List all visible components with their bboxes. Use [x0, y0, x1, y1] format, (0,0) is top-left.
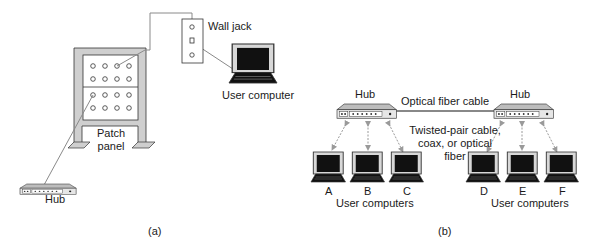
wall-jack [182, 19, 203, 63]
wall-jack-label: Wall jack [208, 20, 252, 32]
user-computers-left-label: User computers [336, 197, 414, 209]
computer-c-label: C [403, 185, 411, 197]
computer-e-icon [505, 152, 540, 182]
hub-right-label: Hub [510, 88, 530, 100]
hub-left-label: Hub [355, 88, 375, 100]
user-computer-laptop-icon [229, 44, 277, 83]
computer-f-label: F [559, 185, 566, 197]
computer-e-label: E [519, 185, 526, 197]
hub-right-icon [494, 104, 553, 118]
computer-a-label: A [325, 185, 332, 197]
computer-f-icon [544, 152, 579, 182]
caption-b: (b) [438, 225, 451, 237]
medium-label-3: fiber [400, 150, 510, 162]
user-computers-right-label: User computers [491, 197, 569, 209]
computer-d-label: D [480, 185, 488, 197]
hub-a-label: Hub [45, 193, 65, 205]
hub-left-icon [337, 104, 396, 118]
patch-panel-label-1: Patch [94, 127, 128, 139]
computer-b-label: B [364, 185, 371, 197]
user-computer-label: User computer [222, 89, 294, 101]
medium-label-1: Twisted-pair cable, [400, 124, 510, 136]
medium-label-2: coax, or optical [400, 137, 510, 149]
computer-b-icon [350, 152, 385, 182]
computer-a-icon [311, 152, 346, 182]
caption-a: (a) [148, 225, 161, 237]
patch-panel-label-2: panel [94, 140, 128, 152]
optical-fiber-label: Optical fiber cable [401, 95, 489, 107]
